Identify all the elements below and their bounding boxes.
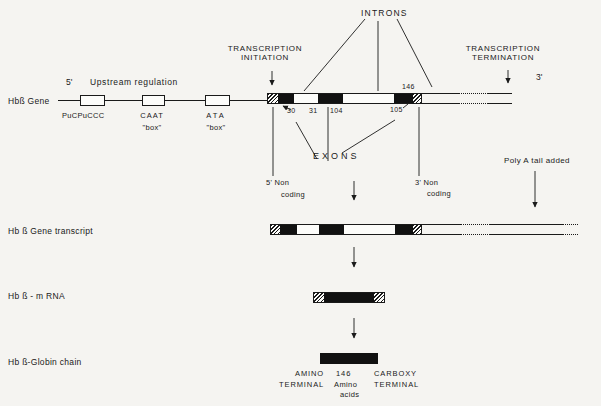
ata-box xyxy=(205,95,230,106)
transcription-initiation-line2: INITIATION xyxy=(217,53,313,62)
codon-105-label: 105 xyxy=(390,106,403,113)
transcription-termination-line2: TERMINATION xyxy=(455,53,551,62)
caat-box xyxy=(142,95,165,106)
amino-acid-count: 146 xyxy=(336,369,351,378)
introns-pointer-left xyxy=(304,19,365,91)
introns-label: INTRONS xyxy=(361,8,408,18)
exons-label: EXONS xyxy=(313,151,360,161)
intron-segment xyxy=(343,94,394,103)
transcript-tail-solid1 xyxy=(422,224,460,235)
transcript-row-label: Hb ß Gene transcript xyxy=(8,226,93,236)
exon-segment xyxy=(318,94,343,103)
codon-146-label: 146 xyxy=(402,83,415,90)
exon-segment xyxy=(280,225,297,234)
hatch-segment xyxy=(413,225,422,234)
ata-label: ATA xyxy=(201,111,231,120)
caat-box-sublabel: "box" xyxy=(137,123,167,132)
codon-30-label: 30 xyxy=(287,107,295,114)
three-noncoding-label-line1: 3' Non xyxy=(415,178,438,187)
ata-box-sublabel: "box" xyxy=(201,123,231,132)
five-noncoding-label-line1: 5' Non xyxy=(266,178,289,187)
amino-terminal-line1: AMINO xyxy=(295,369,324,378)
hatch-segment xyxy=(374,293,384,302)
carboxy-terminal-line2: TERMINAL xyxy=(374,380,419,389)
poly-a-label: Poly A tail added xyxy=(504,156,570,165)
transcription-initiation-label: TRANSCRIPTION INITIATION xyxy=(217,44,313,62)
three-noncoding-label-line2: coding xyxy=(427,189,451,198)
transcription-termination-label: TRANSCRIPTION TERMINATION xyxy=(455,44,551,62)
globin-row-label: Hb ß-Globin chain xyxy=(8,357,82,367)
intron-segment xyxy=(344,225,395,234)
three-prime-label: 3' xyxy=(536,72,542,82)
amino-terminal-line2: TERMINAL xyxy=(279,380,324,389)
hatch-segment xyxy=(314,293,324,302)
intron-segment xyxy=(297,225,319,234)
hatch-segment xyxy=(268,94,278,103)
exon-segment xyxy=(319,225,344,234)
gene-3utr-line-solid1 xyxy=(422,93,458,104)
exon-segment xyxy=(394,94,413,103)
globin-chain-bar xyxy=(320,353,378,364)
gene-row-label: Hbß Gene xyxy=(8,96,50,106)
caat-label: CAAT xyxy=(137,111,167,120)
carboxy-terminal-line1: CARBOXY xyxy=(374,369,417,378)
hbb-gene-diagram: INTRONS TRANSCRIPTION INITIATION TRANSCR… xyxy=(0,0,601,406)
codon-104-label: 104 xyxy=(330,107,343,114)
codon-105-pointer xyxy=(403,104,408,108)
gene-bar xyxy=(267,93,422,104)
transcript-tail-dotted2 xyxy=(562,224,578,235)
exon-segment xyxy=(395,225,413,234)
transcription-termination-line1: TRANSCRIPTION xyxy=(455,44,551,53)
transcript-bar xyxy=(270,224,422,235)
amino-acid-word2: acids xyxy=(340,390,360,399)
mrna-row-label: Hb ß - m RNA xyxy=(8,291,65,301)
five-prime-label: 5' xyxy=(66,77,72,87)
exons-pointer-right xyxy=(342,120,395,153)
introns-pointer-right xyxy=(397,19,432,87)
hatch-segment xyxy=(413,94,422,103)
mrna-bar xyxy=(313,292,385,303)
transcript-tail-solid2 xyxy=(490,224,562,235)
gene-3utr-line-solid2 xyxy=(488,93,512,104)
exon-segment xyxy=(324,293,374,302)
gene-3utr-line-dotted xyxy=(458,93,488,104)
transcript-tail-dotted1 xyxy=(460,224,490,235)
hatch-segment xyxy=(271,225,280,234)
intron-segment xyxy=(294,94,318,103)
transcription-initiation-line1: TRANSCRIPTION xyxy=(217,44,313,53)
five-noncoding-label-line2: coding xyxy=(281,190,305,199)
pucpuccc-label: PuCPuCCC xyxy=(62,111,104,120)
amino-acid-word1: Amino xyxy=(334,380,357,389)
pucpuccc-box xyxy=(80,95,105,106)
codon-31-label: 31 xyxy=(309,107,317,114)
exon-segment xyxy=(278,94,294,103)
upstream-regulation-label: Upstream regulation xyxy=(90,77,178,87)
